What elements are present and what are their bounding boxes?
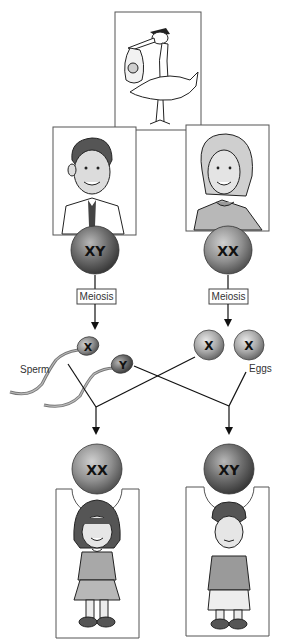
son-panel	[186, 487, 269, 636]
son-chromosome-label: XY	[219, 462, 241, 478]
daughter-panel	[56, 489, 139, 638]
daughter-chromosome-label: XX	[86, 462, 108, 478]
fertilization-lines	[68, 357, 246, 435]
father-panel	[53, 127, 136, 235]
daughter-chromosome-sphere: XX	[72, 444, 122, 494]
meiosis-label-left: Meiosis	[77, 289, 116, 304]
egg-x-1-label: X	[204, 339, 214, 353]
mother-panel	[186, 125, 269, 231]
eggs-label: Eggs	[249, 363, 272, 374]
meiosis-text-left: Meiosis	[80, 291, 114, 302]
arrowhead-icon	[224, 319, 232, 327]
father-chromosome-label: XY	[85, 243, 107, 259]
sperm-x-label: X	[84, 341, 93, 354]
sperm-label: Sperm	[20, 364, 49, 375]
mother-chromosome-sphere: XX	[204, 226, 252, 274]
arrowhead-icon	[91, 322, 99, 330]
stork-panel	[115, 12, 201, 130]
sperm-y-label: Y	[118, 359, 128, 372]
egg-x-2: X	[234, 330, 264, 360]
egg-x-1: X	[194, 330, 224, 360]
egg-x-2-label: X	[244, 339, 254, 353]
mother-chromosome-label: XX	[217, 243, 239, 259]
sex-determination-diagram: XY XX Meiosis Meiosis X Y Sperm X X E	[0, 0, 282, 640]
meiosis-label-right: Meiosis	[209, 289, 248, 304]
father-chromosome-sphere: XY	[71, 226, 119, 274]
meiosis-text-right: Meiosis	[212, 291, 246, 302]
son-chromosome-sphere: XY	[204, 444, 254, 494]
